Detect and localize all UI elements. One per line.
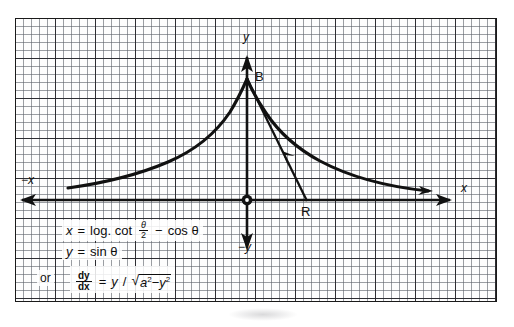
tangent-line-b-r	[247, 79, 307, 201]
eq3-sup-y: 2	[166, 275, 170, 284]
eq1-frac-denominator: 2	[139, 230, 148, 240]
eq3-numerator: y	[111, 274, 118, 289]
tractrix-left-branch	[68, 79, 247, 188]
point-label-b: B	[255, 70, 264, 83]
y-axis-label: y	[243, 31, 249, 43]
origin-dot	[242, 195, 253, 206]
eq3-dydx-fraction: dy dx	[76, 271, 92, 292]
x-axis	[20, 194, 452, 206]
eq1-minus: −	[155, 223, 163, 238]
y-axis	[241, 55, 253, 250]
equation-dydx: dy dx = y / √ a2−y2	[70, 266, 175, 293]
figure-canvas: y −y x −x B R x = log. cot θ 2 − cos θ y…	[0, 0, 514, 327]
eq1-fraction: θ 2	[139, 221, 148, 240]
eq3-equals: =	[99, 274, 107, 289]
page-artifact	[228, 308, 298, 321]
radical-sign-icon: √	[131, 273, 139, 287]
equation-y-of-theta: y = sin θ	[62, 243, 122, 260]
eq3-slash: /	[123, 274, 127, 289]
point-label-r: R	[301, 205, 310, 218]
eq2-rhs: sin θ	[90, 244, 117, 259]
eq1-frac-numerator: θ	[139, 221, 148, 230]
eq3-frac-numerator: dy	[76, 271, 92, 281]
or-label: or	[37, 270, 54, 286]
eq1-lhs: x	[66, 223, 73, 238]
eq1-term2: cos θ	[168, 223, 199, 238]
eq2-lhs: y	[66, 244, 73, 259]
eq1-term1: log. cot	[90, 223, 132, 238]
x-axis-label: x	[461, 182, 467, 194]
neg-x-axis-label: −x	[21, 174, 34, 186]
eq2-equals: =	[78, 244, 86, 259]
eq3-frac-denominator: dx	[76, 281, 92, 292]
eq3-radicand: a2−y2	[139, 274, 171, 290]
equation-x-of-theta: x = log. cot θ 2 − cos θ	[62, 220, 203, 241]
eq1-equals: =	[78, 223, 86, 238]
eq3-radical: √ a2−y2	[131, 273, 171, 290]
neg-y-axis-label: −y	[238, 241, 251, 253]
